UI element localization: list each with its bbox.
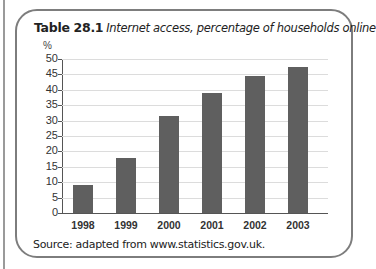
y-axis-tick xyxy=(58,90,62,91)
y-tick-label: 15 xyxy=(28,160,58,172)
y-axis-tick xyxy=(58,198,62,199)
bar-2000 xyxy=(159,116,179,213)
y-axis-tick xyxy=(58,74,62,75)
x-tick-label: 2003 xyxy=(278,219,318,231)
y-tick-label: 45 xyxy=(28,67,58,79)
y-axis-tick xyxy=(58,105,62,106)
x-tick-label: 1998 xyxy=(63,219,103,231)
y-tick-label: 10 xyxy=(28,175,58,187)
y-tick-label: 20 xyxy=(28,144,58,156)
y-axis-tick xyxy=(58,151,62,152)
y-axis-tick xyxy=(58,182,62,183)
x-tick-label: 2001 xyxy=(192,219,232,231)
x-tick-label: 2000 xyxy=(149,219,189,231)
figure-title-number: Table 28.1 xyxy=(34,20,103,35)
y-tick-label: 5 xyxy=(28,191,58,203)
y-axis-tick xyxy=(58,59,62,60)
y-tick-label: 50 xyxy=(28,52,58,64)
bar-1999 xyxy=(116,158,136,213)
x-axis-line xyxy=(62,213,328,214)
y-axis-unit-label: % xyxy=(43,40,52,51)
y-tick-label: 25 xyxy=(28,129,58,141)
y-tick-label: 30 xyxy=(28,114,58,126)
x-tick-label: 1999 xyxy=(106,219,146,231)
y-axis-tick xyxy=(58,213,62,214)
bar-1998 xyxy=(73,185,93,213)
figure-title: Table 28.1Internet access, percentage of… xyxy=(34,20,376,35)
y-axis-tick xyxy=(58,167,62,168)
x-tick-label: 2002 xyxy=(235,219,275,231)
y-tick-label: 35 xyxy=(28,98,58,110)
bar-2003 xyxy=(288,67,308,213)
source-note: Source: adapted from www.statistics.gov.… xyxy=(33,238,265,251)
bar-chart-plot-area: 0510152025303540455019981999200020012002… xyxy=(62,59,328,213)
y-axis-tick xyxy=(58,121,62,122)
y-tick-label: 0 xyxy=(28,206,58,218)
gridline xyxy=(62,59,328,60)
bar-2002 xyxy=(245,76,265,213)
figure-title-text: Internet access, percentage of household… xyxy=(106,21,376,35)
y-axis-tick xyxy=(58,136,62,137)
bar-2001 xyxy=(202,93,222,213)
y-tick-label: 40 xyxy=(28,83,58,95)
page-margin-rule xyxy=(3,0,5,269)
